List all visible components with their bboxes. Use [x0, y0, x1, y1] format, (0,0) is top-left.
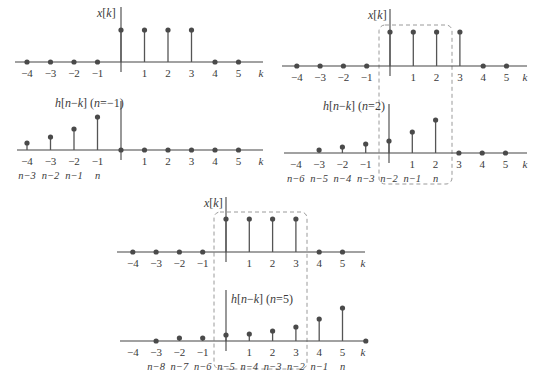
stem-dot — [154, 338, 159, 343]
stem-dot — [142, 147, 147, 152]
tick-label: 2 — [270, 257, 276, 269]
stem-dot — [340, 305, 345, 310]
convolution-diagram: −4−3−2−112345kx[k]−4−3−2−112345n−3n−2n−1… — [0, 0, 545, 372]
stem-dot — [434, 29, 439, 34]
panel-title-label: h[n−k] (n=2) — [323, 99, 385, 113]
tick-label: −2 — [338, 71, 350, 83]
tick-label: 5 — [340, 257, 346, 269]
tick-label: −2 — [68, 67, 80, 79]
k-axis-label: k — [259, 155, 265, 167]
stem-dot — [130, 249, 135, 254]
k-axis-label: k — [523, 158, 529, 170]
stem-dot — [71, 126, 76, 131]
tick-label: −1 — [197, 346, 209, 358]
tick-label: −4 — [290, 158, 302, 170]
overlap-dashed-boxes — [214, 25, 452, 369]
n-offset-label: n — [340, 361, 345, 372]
tick-label: 1 — [247, 257, 253, 269]
panel-h-n-2: −4−3−2−112345n−6n−5n−4n−3n−2n−1nkh[n−k] … — [284, 99, 529, 184]
tick-label: −3 — [45, 155, 57, 167]
k-axis-label: k — [523, 71, 529, 83]
tick-label: 5 — [236, 155, 242, 167]
n-offset-label: n−8 — [147, 361, 165, 372]
stem-dot — [165, 147, 170, 152]
stem-dot — [481, 63, 486, 68]
stem-dot — [247, 331, 252, 336]
tick-label: 2 — [165, 155, 171, 167]
stem-dot — [270, 216, 275, 221]
tick-label: −3 — [150, 346, 162, 358]
tick-label: −1 — [360, 158, 372, 170]
stem-dot — [71, 59, 76, 64]
stem-dot — [247, 216, 252, 221]
stem-dot — [24, 140, 29, 145]
stem-dot — [154, 249, 159, 254]
panel-title-label: x[k] — [203, 196, 223, 210]
stem-dot — [142, 27, 147, 32]
stem-dot — [177, 335, 182, 340]
stem-dot — [95, 59, 100, 64]
panel-x-top-right: −4−3−2−112345kx[k] — [282, 8, 529, 83]
stem-dot — [118, 147, 123, 152]
stem-dot — [212, 147, 217, 152]
panel-title-label: h[n−k] (n=−1) — [55, 96, 124, 110]
tick-label: 3 — [189, 67, 195, 79]
stem-dot — [165, 27, 170, 32]
tick-label: −2 — [68, 155, 80, 167]
stem-dot — [294, 63, 299, 68]
stem-dot — [410, 129, 415, 134]
stem-dot — [236, 59, 241, 64]
tick-label: 4 — [316, 346, 322, 358]
stem-dot — [24, 59, 29, 64]
n-offset-label: n−5 — [310, 173, 328, 184]
stem-dot — [457, 29, 462, 34]
stem-dot — [293, 216, 298, 221]
tick-label: −2 — [337, 158, 349, 170]
tick-label: 2 — [433, 158, 439, 170]
tick-label: 2 — [434, 71, 440, 83]
tick-label: 2 — [165, 67, 171, 79]
stem-dot — [480, 150, 485, 155]
n-offset-label: n−6 — [194, 361, 212, 372]
k-axis-label: k — [361, 346, 367, 358]
tick-label: 3 — [456, 158, 462, 170]
stem-dot — [223, 216, 228, 221]
n-offset-label: n−4 — [241, 361, 259, 372]
stem-dot — [200, 335, 205, 340]
tick-label: 4 — [212, 155, 218, 167]
stem-dot — [504, 63, 509, 68]
stem-dot — [118, 27, 123, 32]
tick-label: 1 — [142, 155, 148, 167]
stem-dot — [364, 63, 369, 68]
stem-dot — [386, 138, 391, 143]
stem-dot — [177, 249, 182, 254]
stem-dot — [293, 324, 298, 329]
n-offset-label: n−3 — [264, 361, 282, 372]
tick-label: 3 — [457, 71, 463, 83]
tick-label: 4 — [479, 158, 485, 170]
tick-label: −3 — [313, 158, 325, 170]
tick-label: 1 — [411, 71, 417, 83]
stem-dot — [189, 147, 194, 152]
stem-dot — [317, 249, 322, 254]
stem-dot — [411, 29, 416, 34]
tick-label: 1 — [247, 346, 253, 358]
tick-label: −3 — [150, 257, 162, 269]
n-offset-label: n−5 — [217, 361, 235, 372]
k-axis-label: k — [361, 257, 367, 269]
n-offset-label: n — [433, 173, 438, 184]
tick-label: 1 — [142, 67, 148, 79]
stem-dot — [189, 27, 194, 32]
panel-x-top-left: −4−3−2−112345kx[k] — [15, 6, 265, 79]
stem-dot — [95, 114, 100, 119]
stem-dot — [340, 144, 345, 149]
stem-dot — [200, 249, 205, 254]
tick-label: −1 — [197, 257, 209, 269]
tick-label: −4 — [21, 155, 33, 167]
tick-label: −4 — [291, 71, 303, 83]
n-offset-label: n−1 — [65, 170, 83, 181]
k-axis-label: k — [259, 67, 265, 79]
panel-title-label: x[k] — [367, 8, 387, 22]
tick-label: 5 — [504, 71, 510, 83]
tick-label: −1 — [92, 155, 104, 167]
